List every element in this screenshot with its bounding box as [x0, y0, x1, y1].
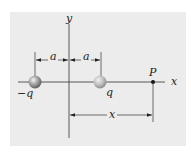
dimension-label-x: x: [109, 108, 116, 121]
positive-charge-label: q: [106, 86, 113, 99]
point-p-label: P: [148, 66, 157, 79]
dimension-label-a-left: a: [50, 50, 57, 63]
x-axis-label: x: [171, 75, 178, 88]
dipole-diagram: y x a a −q q P x: [0, 0, 191, 154]
negative-charge-label: −q: [17, 87, 33, 100]
positive-charge-sphere: [94, 76, 107, 89]
dimension-label-a-right: a: [83, 50, 90, 63]
y-axis-label: y: [65, 12, 73, 25]
